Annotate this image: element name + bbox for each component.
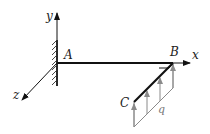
fixed-wall-support [52,40,57,86]
point-c-label: C [120,96,129,110]
z-axis-label: z [12,88,20,102]
point-b-label: B [169,45,179,59]
beam-diagram: y z x A B C q [0,0,210,134]
y-axis-label: y [45,9,53,23]
point-a-label: A [63,48,73,62]
x-axis-label: x [192,48,199,62]
z-axis-arrow [22,63,57,100]
beam-bc [134,63,173,102]
load-q-label: q [158,103,165,116]
